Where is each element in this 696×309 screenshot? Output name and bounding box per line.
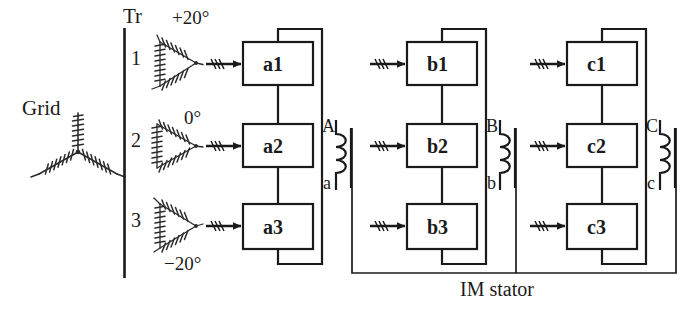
three-phase-arrow-icon-a2 [206,141,241,151]
three-phase-arrow-icon-b1 [370,59,405,69]
coil-winding-icon-b [500,120,510,190]
block-label-a1: a1 [263,54,283,74]
coil-winding-icon-c [660,120,670,190]
block-label-b2: b2 [427,136,448,156]
block-label-c2: c2 [587,136,606,156]
three-phase-arrow-icon-c1 [530,59,565,69]
block-label-c3: c3 [587,217,606,237]
three-phase-arrow-icon-c3 [530,221,565,231]
transformer-angle-3: −20° [164,254,201,273]
coil-terminal-C: C [646,117,658,135]
coil-terminal-A: A [322,117,335,135]
im-stator-label: IM stator [460,279,534,299]
block-label-c1: c1 [587,54,606,74]
block-label-a3: a3 [263,217,283,237]
transformer-number-2: 2 [131,130,141,150]
coil-terminal-b: b [487,174,496,192]
block-label-b3: b3 [427,217,448,237]
delta-winding-icon-1 [152,35,203,90]
coil-terminal-c: c [647,174,655,192]
transformer-section-label: Tr [123,6,142,27]
block-label-b1: b1 [427,54,448,74]
transformer-angle-1: +20° [172,8,209,27]
diagram-canvas: Grid Tr 1 +20° 2 0° 3 −20° a1 a2 a3 b1 b… [0,0,696,309]
three-phase-arrow-icon-a1 [206,59,241,69]
coil-terminal-a: a [323,174,331,192]
block-label-a2: a2 [263,136,283,156]
wye-winding-icon [31,113,125,177]
delta-winding-icon-3 [154,198,203,252]
coil-terminal-B: B [486,117,498,135]
transformer-number-1: 1 [131,48,141,68]
three-phase-arrow-icon-b3 [370,221,405,231]
coil-winding-icon-a [336,120,346,190]
grid-label: Grid [22,98,61,119]
three-phase-arrow-icon-b2 [370,141,405,151]
three-phase-arrow-icon-a3 [206,221,241,231]
transformer-angle-2: 0° [184,108,201,127]
transformer-number-3: 3 [131,210,141,230]
three-phase-arrow-icon-c2 [530,141,565,151]
